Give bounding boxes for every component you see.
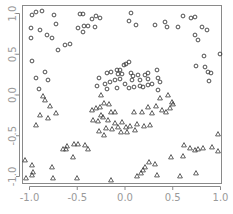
- circle-marker: [123, 82, 127, 86]
- circle-marker: [37, 87, 41, 91]
- circle-marker: [34, 10, 38, 14]
- triangle-marker: [76, 142, 81, 146]
- circle-marker: [127, 19, 131, 23]
- circle-marker: [109, 70, 113, 74]
- data-points: [23, 9, 222, 182]
- triangle-marker: [160, 108, 165, 112]
- circle-marker: [196, 38, 200, 42]
- triangle-marker: [96, 119, 101, 123]
- triangle-marker: [110, 127, 115, 131]
- triangle-marker: [30, 173, 35, 177]
- triangle-marker: [201, 146, 206, 150]
- circle-marker: [68, 42, 72, 46]
- circle-marker: [155, 68, 159, 72]
- circle-marker: [153, 23, 157, 27]
- triangle-marker: [23, 158, 28, 162]
- triangle-marker: [158, 96, 163, 100]
- circle-marker: [127, 86, 131, 90]
- triangle-marker: [91, 118, 96, 122]
- triangle-marker: [104, 126, 109, 130]
- triangle-marker: [113, 110, 118, 114]
- circle-marker: [93, 25, 97, 29]
- triangle-marker: [133, 128, 138, 132]
- circle-marker: [132, 85, 136, 89]
- circle-marker: [97, 76, 101, 80]
- triangle-marker: [155, 173, 160, 177]
- circle-marker: [94, 14, 98, 18]
- circle-marker: [129, 11, 133, 15]
- circle-marker: [29, 36, 33, 40]
- triangle-marker: [135, 122, 140, 126]
- scatter-plot: -1.0-0.50.00.51.0 -1.0-0.50.00.51.0: [0, 0, 233, 214]
- circle-marker: [163, 20, 167, 24]
- triangle-marker: [48, 104, 53, 108]
- circle-marker: [118, 77, 122, 81]
- y-tick-label: 0.5: [7, 46, 18, 62]
- triangle-marker: [102, 133, 107, 137]
- circle-marker: [165, 25, 169, 29]
- triangle-marker: [154, 104, 159, 108]
- triangle-marker: [142, 124, 147, 128]
- triangle-marker: [216, 149, 221, 153]
- triangle-marker: [194, 171, 199, 175]
- triangle-marker: [146, 105, 151, 109]
- circle-marker: [50, 36, 54, 40]
- triangle-marker: [107, 102, 112, 106]
- triangle-marker: [46, 116, 51, 120]
- circle-marker: [105, 87, 109, 91]
- triangle-marker: [140, 110, 145, 114]
- triangle-marker: [188, 146, 193, 150]
- triangle-marker: [119, 130, 124, 134]
- triangle-marker: [166, 93, 171, 97]
- triangle-marker: [128, 124, 133, 128]
- x-tick-label: -0.5: [67, 192, 87, 203]
- triangle-marker: [181, 154, 186, 158]
- circle-marker: [90, 17, 94, 21]
- circle-marker: [127, 60, 131, 64]
- triangle-marker: [99, 93, 104, 97]
- triangle-marker: [182, 143, 187, 147]
- circle-marker: [95, 84, 99, 88]
- y-axis: -1.0-0.50.00.51.0: [7, 6, 20, 187]
- triangle-marker: [210, 145, 215, 149]
- y-tick-label: 1.0: [7, 6, 18, 22]
- circle-marker: [156, 88, 160, 92]
- triangle-marker: [41, 94, 46, 98]
- triangle-marker: [113, 121, 118, 125]
- triangle-marker: [196, 147, 201, 151]
- triangle-marker: [94, 106, 99, 110]
- circle-marker: [46, 78, 50, 82]
- x-tick-label: 1.0: [213, 192, 229, 203]
- triangle-marker: [71, 155, 76, 159]
- circle-marker: [181, 14, 185, 18]
- triangle-marker: [34, 123, 39, 127]
- circle-marker: [189, 16, 193, 20]
- triangle-marker: [150, 111, 155, 115]
- circle-marker: [116, 72, 120, 76]
- circle-marker: [76, 26, 80, 30]
- circle-marker: [81, 30, 85, 34]
- triangle-marker: [75, 176, 80, 180]
- x-tick-label: 0.5: [165, 192, 181, 203]
- triangle-marker: [102, 101, 107, 105]
- plot-frame: [23, 6, 222, 184]
- triangle-marker: [50, 165, 55, 169]
- triangle-marker: [97, 129, 102, 133]
- circle-marker: [113, 78, 117, 82]
- triangle-marker: [109, 178, 114, 182]
- circle-marker: [115, 86, 119, 90]
- circle-marker: [136, 73, 140, 77]
- circle-marker: [205, 28, 209, 32]
- x-tick-label: -1.0: [20, 192, 40, 203]
- triangle-marker: [106, 118, 111, 122]
- circle-marker: [146, 77, 150, 81]
- circle-marker: [38, 28, 42, 32]
- triangle-marker: [147, 160, 152, 164]
- x-tick-label: 0.0: [117, 192, 133, 203]
- circle-marker: [130, 78, 134, 82]
- circle-marker: [193, 33, 197, 37]
- circle-marker: [207, 79, 211, 83]
- circle-marker: [156, 76, 160, 80]
- circle-marker: [45, 33, 49, 37]
- circle-marker: [108, 80, 112, 84]
